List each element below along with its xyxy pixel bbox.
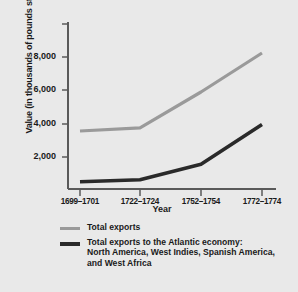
x-axis-title: Year	[62, 204, 262, 214]
legend-item-atlantic-economy: Total exports to the Atlantic economy: N…	[60, 237, 296, 269]
legend-label-atlantic-economy: Total exports to the Atlantic economy: N…	[87, 237, 275, 269]
line-chart-figure: Value (in thousands of pounds sterling) …	[0, 0, 298, 292]
legend-swatch-atlantic-economy	[60, 242, 80, 246]
legend-label-total-exports: Total exports	[87, 222, 140, 233]
legend-item-total-exports: Total exports	[60, 222, 296, 233]
legend-swatch-total-exports	[60, 227, 80, 230]
series-line-total-exports	[80, 53, 262, 131]
chart-legend: Total exports Total exports to the Atlan…	[60, 222, 296, 272]
series-line-atlantic-economy	[80, 125, 262, 182]
